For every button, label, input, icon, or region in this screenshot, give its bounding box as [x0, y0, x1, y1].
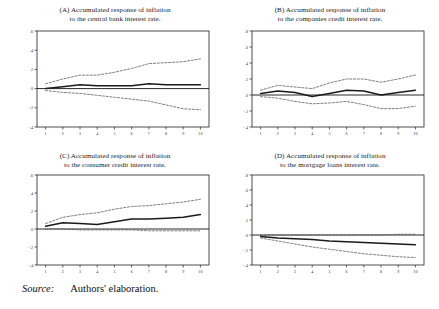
xtick-label: 9 — [182, 131, 184, 136]
xtick-label: 7 — [363, 131, 365, 136]
panel-b-title-line2: to the companies credit interest rate. — [225, 15, 435, 24]
panel-b-ytick-labels: .8.6.4.2.0-.2-.4 — [244, 29, 252, 130]
xtick-label: 3 — [79, 131, 81, 136]
panel-a-ytick-labels: .6.4.2.0-.2-.4 — [29, 29, 37, 130]
panel-d-title-line2: to the mortgage loans interest rate. — [225, 161, 435, 170]
xtick-label: 3 — [294, 131, 296, 136]
xtick-label: 5 — [328, 269, 330, 274]
figure-container: (A) Accumulated response of inflation to… — [0, 0, 439, 309]
xtick-label: 7 — [148, 269, 150, 274]
xtick-label: 8 — [165, 131, 167, 136]
ytick-label: -.4 — [29, 125, 33, 130]
panel-c-title-line2: to the consumer credit interest rate. — [10, 161, 220, 170]
panel-d-title-line1: (D) Accumulated response of inflation — [225, 152, 435, 161]
panel-a-title: (A) Accumulated response of inflation to… — [10, 6, 220, 23]
xtick-label: 1 — [260, 131, 262, 136]
xtick-label: 4 — [96, 131, 98, 136]
xtick-label: 4 — [311, 131, 313, 136]
xtick-label: 8 — [165, 269, 167, 274]
ytick-label: -.2 — [29, 245, 33, 250]
panel-d-ytick-labels: .8.6.4.2.0-.2-.4 — [244, 173, 252, 268]
ytick-label: .4 — [30, 191, 33, 196]
source-note: Source:Authors' elaboration. — [22, 283, 158, 294]
panel-a-svg: .6.4.2.0-.2-.4 12345678910 — [10, 23, 220, 149]
ytick-label: .4 — [30, 48, 33, 53]
panel-d-axes — [252, 175, 424, 265]
panel-a-axes — [37, 31, 209, 127]
ytick-label: .8 — [245, 29, 248, 34]
panel-b: (B) Accumulated response of inflation to… — [225, 6, 435, 151]
panel-c-svg: .6.4.2.0-.2-.4 12345678910 — [10, 169, 220, 281]
xtick-label: 1 — [45, 269, 47, 274]
xtick-label: 2 — [62, 269, 64, 274]
xtick-label: 2 — [277, 131, 279, 136]
panel-a: (A) Accumulated response of inflation to… — [10, 6, 220, 151]
panel-b-svg: .8.6.4.2.0-.2-.4 12345678910 — [225, 23, 435, 149]
panel-b-title: (B) Accumulated response of inflation to… — [225, 6, 435, 23]
xtick-label: 6 — [131, 269, 133, 274]
ytick-label: -.4 — [29, 263, 33, 268]
panel-d: (D) Accumulated response of inflation to… — [225, 152, 435, 282]
xtick-label: 7 — [363, 269, 365, 274]
source-label: Source: — [22, 283, 54, 294]
xtick-label: 1 — [45, 131, 47, 136]
panel-d-plot: .8.6.4.2.0-.2-.4 12345678910 — [225, 169, 435, 281]
ytick-label: -.2 — [29, 106, 33, 111]
xtick-label: 10 — [198, 131, 202, 136]
ytick-label: .2 — [30, 67, 33, 72]
xtick-label: 2 — [62, 131, 64, 136]
source-value: Authors' elaboration. — [70, 283, 158, 294]
xtick-label: 6 — [346, 131, 348, 136]
xtick-label: 4 — [311, 269, 313, 274]
panel-a-plot: .6.4.2.0-.2-.4 12345678910 — [10, 23, 220, 149]
xtick-label: 9 — [397, 131, 399, 136]
xtick-label: 6 — [131, 131, 133, 136]
xtick-label: 1 — [260, 269, 262, 274]
xtick-label: 10 — [413, 269, 417, 274]
panel-b-title-line1: (B) Accumulated response of inflation — [225, 6, 435, 15]
xtick-label: 9 — [397, 269, 399, 274]
panel-a-title-line2: to the central bank interest rate. — [10, 15, 220, 24]
panel-d-xtick-labels: 12345678910 — [260, 265, 418, 274]
xtick-label: 5 — [113, 269, 115, 274]
panel-d-title: (D) Accumulated response of inflation to… — [225, 152, 435, 169]
xtick-label: 5 — [328, 131, 330, 136]
xtick-label: 8 — [380, 269, 382, 274]
xtick-label: 3 — [79, 269, 81, 274]
ytick-label: -.4 — [244, 263, 248, 268]
ytick-label: .0 — [245, 93, 248, 98]
ytick-label: .6 — [245, 188, 248, 193]
panel-b-xtick-labels: 12345678910 — [260, 127, 418, 136]
panel-d-svg: .8.6.4.2.0-.2-.4 12345678910 — [225, 169, 435, 281]
ytick-label: .4 — [245, 61, 248, 66]
ytick-label: .8 — [245, 173, 248, 178]
panel-a-title-line1: (A) Accumulated response of inflation — [10, 6, 220, 15]
ytick-label: .2 — [245, 218, 248, 223]
xtick-label: 3 — [294, 269, 296, 274]
xtick-label: 10 — [198, 269, 202, 274]
ytick-label: .2 — [30, 209, 33, 214]
xtick-label: 9 — [182, 269, 184, 274]
panel-c: (C) Accumulated response of inflation to… — [10, 152, 220, 282]
xtick-label: 6 — [346, 269, 348, 274]
xtick-label: 5 — [113, 131, 115, 136]
ytick-label: -.4 — [244, 125, 248, 130]
ytick-label: .6 — [245, 45, 248, 50]
panel-c-ytick-labels: .6.4.2.0-.2-.4 — [29, 173, 37, 268]
xtick-label: 7 — [148, 131, 150, 136]
panel-b-plot: .8.6.4.2.0-.2-.4 12345678910 — [225, 23, 435, 149]
panel-c-title: (C) Accumulated response of inflation to… — [10, 152, 220, 169]
ytick-label: .2 — [245, 77, 248, 82]
ytick-label: -.2 — [244, 109, 248, 114]
ytick-label: .6 — [30, 173, 33, 178]
ytick-label: .0 — [245, 233, 248, 238]
ytick-label: .0 — [30, 227, 33, 232]
ytick-label: .6 — [30, 29, 33, 34]
xtick-label: 8 — [380, 131, 382, 136]
ytick-label: -.2 — [244, 248, 248, 253]
xtick-label: 2 — [277, 269, 279, 274]
ytick-label: .0 — [30, 86, 33, 91]
panel-c-xtick-labels: 12345678910 — [45, 265, 203, 274]
xtick-label: 4 — [96, 269, 98, 274]
xtick-label: 10 — [413, 131, 417, 136]
